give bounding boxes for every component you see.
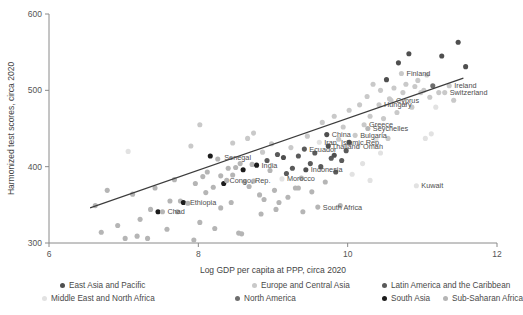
data-point (365, 94, 370, 99)
legend-label: East Asia and Pacific (69, 281, 145, 290)
data-point (296, 185, 301, 190)
chart-canvas: 300400500600681012Log GDP per capita at … (0, 0, 505, 280)
data-point (276, 200, 281, 205)
data-point (218, 205, 223, 210)
data-point (193, 181, 198, 186)
chart-legend: East Asia and PacificEurope and Central … (0, 277, 505, 315)
point-label: Congo, Rep. (229, 176, 270, 185)
point-label: South Africa (323, 203, 363, 212)
data-point (105, 188, 110, 193)
x-axis-title: Log GDP per capita at PPP, circa 2020 (200, 265, 346, 275)
data-point (205, 169, 210, 174)
legend-swatch (382, 296, 387, 301)
data-point (164, 227, 169, 232)
data-point (288, 145, 293, 150)
data-point (259, 211, 264, 216)
data-point (400, 90, 405, 95)
y-axis-title: Harmonized test scores, circa 2020 (6, 62, 16, 195)
data-point (257, 192, 262, 197)
data-point (399, 71, 404, 76)
data-point (415, 78, 420, 83)
data-point (197, 122, 202, 127)
data-point (167, 198, 172, 203)
data-point (339, 158, 344, 163)
data-point (371, 82, 376, 87)
data-point (362, 122, 367, 127)
data-point (99, 230, 104, 235)
legend-item-north-america[interactable]: North America (235, 294, 296, 303)
data-point (302, 147, 307, 152)
data-point (279, 176, 284, 181)
data-point (305, 134, 310, 139)
legend-swatch (443, 296, 448, 301)
data-point (391, 85, 396, 90)
x-tick-label: 10 (343, 249, 353, 259)
data-point (368, 178, 373, 183)
data-point (123, 236, 128, 241)
data-point (191, 237, 196, 242)
data-point (203, 190, 208, 195)
data-point (272, 188, 277, 193)
data-point (229, 200, 234, 205)
data-point (181, 200, 186, 205)
legend-item-east-asia-and-pacific[interactable]: East Asia and Pacific (60, 281, 145, 290)
data-point (226, 166, 231, 171)
data-point (115, 223, 120, 228)
data-point (245, 136, 250, 141)
data-point (332, 114, 337, 119)
y-tick-label: 300 (28, 238, 42, 248)
data-point (442, 90, 447, 95)
data-point (200, 174, 205, 179)
data-point (135, 234, 140, 239)
data-point (320, 120, 325, 125)
legend-item-europe-and-central-asia[interactable]: Europe and Central Asia (252, 281, 350, 290)
data-point (350, 172, 355, 177)
data-point (211, 185, 216, 190)
data-point (126, 149, 131, 154)
data-point (427, 95, 432, 100)
data-point (230, 140, 235, 145)
data-point (275, 152, 280, 157)
legend-swatch (42, 296, 47, 301)
data-point (456, 40, 461, 45)
x-tick-label: 6 (47, 249, 52, 259)
y-tick-label: 400 (28, 162, 42, 172)
data-point (451, 98, 456, 103)
point-label: Indonesia (311, 165, 344, 174)
point-label: India (262, 161, 279, 170)
point-label: Ethiopia (190, 198, 217, 207)
legend-label: Latin America and the Caribbean (391, 281, 510, 290)
legend-item-sub-saharan-africa[interactable]: Sub-Saharan Africa (443, 294, 523, 303)
legend-item-latin-america-and-the-caribbean[interactable]: Latin America and the Caribbean (382, 281, 510, 290)
legend-swatch (60, 283, 65, 288)
point-label: Kuwait (421, 181, 443, 190)
data-point (138, 217, 143, 222)
data-point (148, 207, 153, 212)
point-label: Switzerland (450, 88, 488, 97)
data-point (233, 165, 238, 170)
data-point (429, 131, 434, 136)
data-point (239, 231, 244, 236)
data-point (315, 205, 320, 210)
legend-label: Middle East and North Africa (51, 294, 155, 303)
data-point (423, 136, 428, 141)
data-point (241, 167, 246, 172)
data-point (396, 60, 401, 65)
point-label: Chad (167, 207, 184, 216)
data-point (188, 144, 193, 149)
data-point (324, 132, 329, 137)
data-point (439, 53, 444, 58)
data-point (160, 209, 165, 214)
data-point (285, 195, 290, 200)
data-point (436, 90, 441, 95)
legend-item-middle-east-and-north-africa[interactable]: Middle East and North Africa (42, 294, 155, 303)
data-point (384, 77, 389, 82)
data-point (281, 155, 286, 160)
legend-swatch (382, 283, 387, 288)
data-point (309, 189, 314, 194)
x-tick-label: 12 (492, 249, 502, 259)
point-label: Senegal (224, 153, 251, 162)
point-label: Morocco (287, 174, 315, 183)
legend-item-south-asia[interactable]: South Asia (382, 294, 430, 303)
